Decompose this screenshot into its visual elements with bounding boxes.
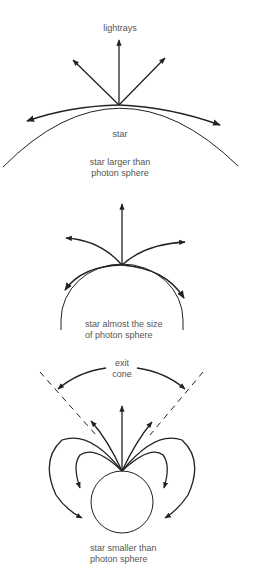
caption-panel2-line2: of photon sphere <box>85 330 153 341</box>
caption-panel3-line2: photon sphere <box>90 554 148 565</box>
caption-panel3-line1: star smaller than <box>90 543 157 554</box>
caption-panel2-line1: star almost the size <box>85 319 163 330</box>
star-circle <box>91 471 153 533</box>
panel-small-star <box>40 368 203 533</box>
ray-curved-left <box>66 238 122 265</box>
ray-left <box>73 60 119 105</box>
ray-curved-right <box>122 242 185 265</box>
cone-boundary-right <box>150 372 203 435</box>
panel-large-star <box>3 40 238 167</box>
label-exit: exit <box>108 358 136 369</box>
ray-right <box>119 58 165 105</box>
exit-cone-arrow-left <box>58 368 106 389</box>
label-cone: cone <box>108 369 136 380</box>
caption-panel1-line1: star larger than <box>70 157 170 168</box>
label-lightrays: lightrays <box>100 23 140 34</box>
ray-tangent-right <box>122 265 184 298</box>
ray-tangent-left <box>27 105 119 121</box>
label-star: star <box>105 129 135 140</box>
diagram-canvas <box>0 0 253 576</box>
ray-tangent-right <box>119 105 220 125</box>
caption-panel1-line2: photon sphere <box>70 168 170 179</box>
panel-near-photon-sphere <box>61 204 185 330</box>
exit-cone-arrow-right <box>137 368 185 389</box>
